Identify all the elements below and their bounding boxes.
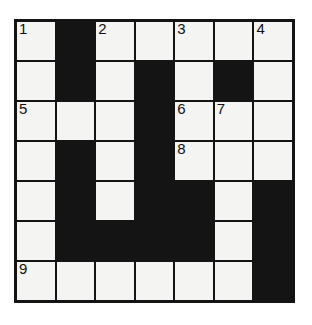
crossword-cell[interactable] <box>96 262 134 300</box>
crossword-cell[interactable] <box>57 262 95 300</box>
crossword-cell[interactable]: 2 <box>96 22 134 60</box>
crossword-cell[interactable] <box>17 142 55 180</box>
crossword-block-cell <box>254 182 292 220</box>
crossword-cell[interactable]: 3 <box>175 22 213 60</box>
crossword-cell[interactable] <box>17 182 55 220</box>
clue-number: 5 <box>19 101 27 116</box>
crossword-block-cell <box>57 62 95 100</box>
crossword-cell[interactable] <box>57 102 95 140</box>
crossword-cell[interactable]: 1 <box>17 22 55 60</box>
crossword-cell[interactable]: 7 <box>215 102 253 140</box>
crossword-cell[interactable] <box>96 102 134 140</box>
crossword-block-cell <box>136 62 174 100</box>
crossword-block-cell <box>175 182 213 220</box>
crossword-cell[interactable]: 6 <box>175 102 213 140</box>
clue-number: 2 <box>98 21 106 36</box>
crossword-cell[interactable] <box>215 222 253 260</box>
crossword-cell[interactable] <box>215 142 253 180</box>
crossword-block-cell <box>215 62 253 100</box>
clue-number: 9 <box>19 261 27 276</box>
crossword-block-cell <box>57 222 95 260</box>
crossword-cell[interactable] <box>96 182 134 220</box>
clue-number: 8 <box>177 141 185 156</box>
crossword-block-cell <box>136 222 174 260</box>
crossword-cell[interactable] <box>136 22 174 60</box>
crossword-block-cell <box>136 142 174 180</box>
crossword-block-cell <box>57 182 95 220</box>
crossword-cell[interactable] <box>96 142 134 180</box>
clue-number: 7 <box>217 101 225 116</box>
crossword-cell[interactable] <box>215 262 253 300</box>
crossword-block-cell <box>254 262 292 300</box>
crossword-block-cell <box>57 142 95 180</box>
clue-number: 3 <box>177 21 185 36</box>
crossword-block-cell <box>175 222 213 260</box>
crossword-cell[interactable]: 9 <box>17 262 55 300</box>
crossword-puzzle: 123456789 <box>14 19 295 303</box>
crossword-cell[interactable] <box>17 62 55 100</box>
crossword-cell[interactable] <box>215 22 253 60</box>
crossword-cell[interactable] <box>175 62 213 100</box>
crossword-block-cell <box>136 182 174 220</box>
crossword-cell[interactable] <box>96 62 134 100</box>
crossword-cell[interactable] <box>254 102 292 140</box>
crossword-cell[interactable] <box>175 262 213 300</box>
clue-number: 4 <box>256 21 264 36</box>
crossword-block-cell <box>96 222 134 260</box>
crossword-cell[interactable]: 8 <box>175 142 213 180</box>
crossword-cell[interactable]: 5 <box>17 102 55 140</box>
crossword-cell[interactable] <box>215 182 253 220</box>
crossword-block-cell <box>57 22 95 60</box>
clue-number: 6 <box>177 101 185 116</box>
crossword-grid: 123456789 <box>17 22 292 300</box>
crossword-cell[interactable] <box>17 222 55 260</box>
clue-number: 1 <box>19 21 27 36</box>
crossword-cell[interactable] <box>254 62 292 100</box>
crossword-block-cell <box>136 102 174 140</box>
crossword-cell[interactable]: 4 <box>254 22 292 60</box>
crossword-cell[interactable] <box>136 262 174 300</box>
crossword-cell[interactable] <box>254 142 292 180</box>
crossword-block-cell <box>254 222 292 260</box>
